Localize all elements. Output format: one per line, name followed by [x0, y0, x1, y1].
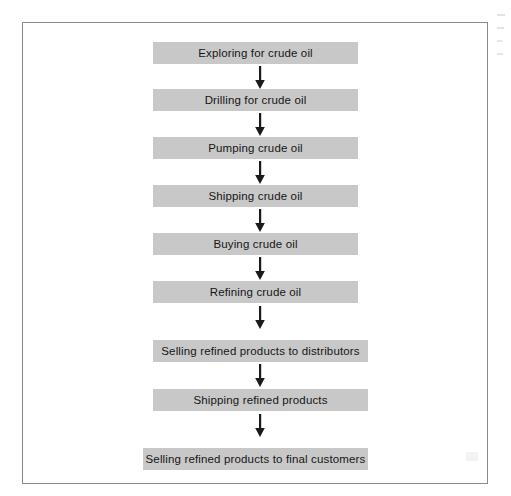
flow-arrow-icon — [253, 113, 267, 138]
flow-node: Refining crude oil — [153, 281, 358, 303]
flow-node: Selling refined products to final custom… — [143, 448, 368, 470]
flow-node: Shipping refined products — [153, 389, 368, 411]
flow-node: Selling refined products to distributors — [153, 340, 368, 362]
flow-node-label: Refining crude oil — [210, 286, 302, 298]
flow-node-label: Exploring for crude oil — [198, 47, 313, 59]
flow-node: Shipping crude oil — [153, 185, 358, 207]
flow-node: Exploring for crude oil — [153, 42, 358, 64]
flow-arrow-icon — [253, 161, 267, 186]
flow-node-label: Drilling for crude oil — [205, 94, 307, 106]
flow-node-label: Pumping crude oil — [208, 142, 303, 154]
page-canvas: Exploring for crude oilDrilling for crud… — [0, 0, 511, 496]
flow-arrow-icon — [253, 209, 267, 234]
flow-node-label: Shipping crude oil — [208, 190, 302, 202]
flow-arrow-icon — [253, 257, 267, 282]
flow-arrow-icon — [253, 414, 267, 439]
flow-node: Drilling for crude oil — [153, 89, 358, 111]
flow-node-label: Selling refined products to distributors — [161, 345, 359, 357]
flow-arrow-icon — [253, 364, 267, 389]
flow-node: Buying crude oil — [153, 233, 358, 255]
flow-node-label: Buying crude oil — [213, 238, 297, 250]
flow-arrow-icon — [253, 306, 267, 331]
flow-node-label: Selling refined products to final custom… — [146, 453, 366, 465]
flow-arrow-icon — [253, 66, 267, 91]
flow-node-label: Shipping refined products — [193, 394, 327, 406]
flow-node: Pumping crude oil — [153, 137, 358, 159]
flowchart: Exploring for crude oilDrilling for crud… — [0, 0, 511, 496]
